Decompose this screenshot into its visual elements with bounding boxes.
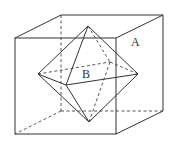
octa-right-bottom-edge [89,74,138,122]
octa-left-bottom-edge [38,74,89,122]
cube-bottom-left-depth-edge [15,111,61,134]
octahedron-label: B [82,67,90,81]
cube-octahedron-diagram: A B [0,0,175,147]
cube-bottom-right-depth-edge [116,111,163,134]
octa-front-right-edge [66,74,138,85]
octa-top-left-edge [38,26,88,74]
octa-back-bottom-edge [89,62,110,122]
octa-left-front-edge [38,74,66,85]
octa-top-right-edge [88,26,138,74]
octa-back-right-edge [110,62,138,74]
cube-top-left-depth-edge [15,15,61,38]
cube-front-face [15,38,116,134]
cube-label: A [131,35,140,49]
